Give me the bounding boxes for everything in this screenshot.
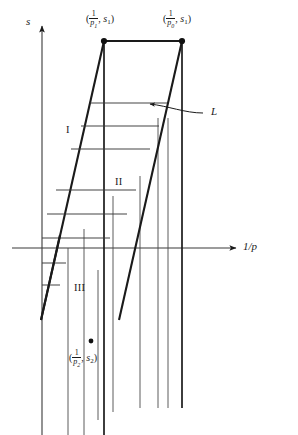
y-axis-label: s (26, 16, 30, 27)
L-pointer-curve (150, 104, 203, 113)
diagram-canvas (0, 0, 298, 435)
region-label-III: III (74, 283, 85, 294)
vertex-dot-p0 (179, 38, 185, 44)
point-label-p1: (1p1, s1) (86, 10, 114, 29)
hatching-lower-wedge (42, 238, 110, 285)
paren-close: ) (94, 352, 97, 363)
fraction-one-over-p2: 1p2 (72, 349, 81, 368)
fraction-numerator: 1 (89, 10, 98, 18)
point-label-p2: (1p2, s2) (69, 349, 97, 368)
hatching-region-I (47, 103, 167, 214)
fraction-numerator: 1 (72, 349, 81, 357)
fraction-denominator: p2 (72, 357, 81, 368)
x-axis-label: 1/p (243, 241, 257, 252)
fraction-denominator: p1 (89, 18, 98, 29)
fraction-one-over-p0: 1p0 (166, 10, 175, 29)
axes-group (12, 26, 236, 435)
denominator-subscript: 1 (94, 22, 97, 28)
L-pointer-group (150, 104, 203, 113)
point-dot-p2 (89, 339, 94, 344)
figure-root: s 1/p (1p1, s1) (1p0, s1) (1p2, s2) I II… (0, 0, 298, 435)
right-slant-boundary-L (119, 41, 182, 320)
denominator-subscript: 2 (77, 361, 80, 367)
annotation-label-L: L (211, 106, 217, 117)
vertex-dot-p1 (101, 38, 107, 44)
fraction-denominator: p0 (166, 18, 175, 29)
vertex-dots (89, 38, 185, 344)
paren-close: ) (111, 13, 114, 24)
paren-close: ) (188, 13, 191, 24)
x-axis-label-text: 1/p (243, 240, 257, 252)
region-label-I: I (66, 125, 70, 136)
denominator-subscript: 0 (171, 22, 174, 28)
point-label-p0: (1p0, s1) (163, 10, 191, 29)
region-label-II: II (115, 177, 122, 188)
fraction-one-over-p1: 1p1 (89, 10, 98, 29)
fraction-numerator: 1 (166, 10, 175, 18)
